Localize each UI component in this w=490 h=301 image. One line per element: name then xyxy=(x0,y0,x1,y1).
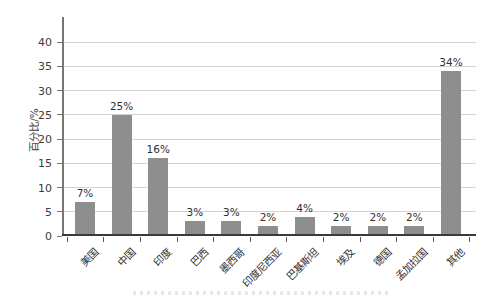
bar xyxy=(112,115,132,236)
y-tick-label: 40 xyxy=(14,36,52,49)
y-tick-label: 10 xyxy=(14,182,52,195)
gridline xyxy=(62,42,476,43)
cropped-caption-sliver xyxy=(133,291,388,295)
x-tick-mark xyxy=(286,237,287,242)
x-tick-mark xyxy=(67,237,68,242)
y-tick-label: 30 xyxy=(14,85,52,98)
x-tick-label: 印度 xyxy=(150,244,175,269)
x-tick-mark xyxy=(469,237,470,242)
x-tick-mark xyxy=(140,237,141,242)
x-tick-label: 埃及 xyxy=(333,244,358,269)
x-tick-mark xyxy=(360,237,361,242)
bar-value-label: 16% xyxy=(133,143,183,155)
gridline xyxy=(62,66,476,67)
x-tick-label: 美国 xyxy=(77,244,102,269)
x-tick-mark xyxy=(250,237,251,242)
y-tick-label: 35 xyxy=(14,60,52,73)
x-tick-label: 德国 xyxy=(370,244,395,269)
x-tick-mark xyxy=(103,237,104,242)
x-tick-label: 墨西哥 xyxy=(216,244,248,276)
x-tick-mark xyxy=(177,237,178,242)
bar xyxy=(441,71,461,236)
x-tick-label: 其他 xyxy=(443,244,468,269)
x-tick-mark xyxy=(433,237,434,242)
y-tick-label: 20 xyxy=(14,133,52,146)
y-tick-label: 25 xyxy=(14,109,52,122)
bar-chart-figure: 百分比/% 7%25%16%3%3%2%4%2%2%2%34% 05101520… xyxy=(0,0,490,301)
x-tick-label: 巴基斯坦 xyxy=(282,244,321,283)
bar xyxy=(75,202,95,236)
x-tick-label: 印度尼西亚 xyxy=(239,244,285,290)
bar-value-label: 2% xyxy=(389,211,439,223)
x-tick-label: 巴西 xyxy=(187,244,212,269)
bar-value-label: 7% xyxy=(60,187,110,199)
y-axis-line xyxy=(62,17,64,236)
y-tick-label: 5 xyxy=(14,206,52,219)
bar xyxy=(148,158,168,236)
y-tick-label: 15 xyxy=(14,157,52,170)
x-tick-mark xyxy=(396,237,397,242)
y-tick-label: 0 xyxy=(14,230,52,243)
bar-value-label: 25% xyxy=(97,100,147,112)
gridline xyxy=(62,90,476,91)
x-tick-mark xyxy=(213,237,214,242)
bar-value-label: 34% xyxy=(426,56,476,68)
plot-area: 7%25%16%3%3%2%4%2%2%2%34% 05101520253035… xyxy=(62,17,476,236)
x-tick-label: 孟加拉国 xyxy=(392,244,431,283)
x-tick-label: 中国 xyxy=(113,244,138,269)
x-axis-line xyxy=(62,234,476,236)
x-tick-mark xyxy=(323,237,324,242)
